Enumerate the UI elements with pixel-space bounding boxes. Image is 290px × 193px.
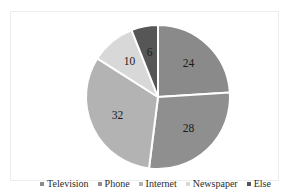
legend-item-phone[interactable]: Phone — [98, 179, 130, 189]
legend-item-label: Newspaper — [193, 179, 238, 189]
chart-frame: 242832106 TelevisionPhoneInternetNewspap… — [10, 11, 279, 181]
pie-slice-value-internet: 32 — [112, 109, 124, 121]
pie-slices — [86, 25, 230, 169]
chart-legend: TelevisionPhoneInternetNewspaperElse — [22, 176, 289, 192]
pie-chart-area: 242832106 — [11, 12, 290, 172]
pie-slice-value-newspaper: 10 — [124, 55, 136, 67]
legend-swatch-icon — [40, 182, 44, 186]
chart-page: 242832106 TelevisionPhoneInternetNewspap… — [0, 0, 290, 193]
legend-item-internet[interactable]: Internet — [139, 179, 177, 189]
legend-swatch-icon — [139, 182, 143, 186]
legend-swatch-icon — [247, 182, 251, 186]
legend-item-label: Internet — [146, 179, 177, 189]
pie-chart-svg: 242832106 — [11, 12, 290, 172]
legend-swatch-icon — [98, 182, 102, 186]
pie-slice-value-television: 24 — [183, 57, 195, 69]
legend-item-newspaper[interactable]: Newspaper — [186, 179, 238, 189]
legend-swatch-icon — [186, 182, 190, 186]
pie-slice-value-else: 6 — [147, 46, 153, 58]
pie-slice-value-phone: 28 — [183, 122, 195, 134]
legend-item-label: Phone — [105, 179, 130, 189]
legend-item-else[interactable]: Else — [247, 179, 271, 189]
legend-item-label: Else — [254, 179, 271, 189]
legend-item-television[interactable]: Television — [40, 179, 89, 189]
legend-item-label: Television — [47, 179, 89, 189]
